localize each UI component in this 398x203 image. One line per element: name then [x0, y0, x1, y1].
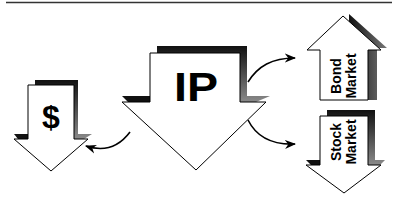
connector-ip-to-bond [248, 58, 295, 82]
ip-label: IP [174, 65, 218, 109]
connector-ip-to-dollar [86, 132, 130, 149]
dollar-label: $ [42, 99, 60, 135]
bond-market-arrow: Bond Market [307, 14, 387, 100]
diagram-svg: IP $ Bond Market Stock Market [0, 0, 398, 203]
ip-arrow-head-shadow-left [122, 96, 150, 102]
stock-market-arrow: Stock Market [306, 110, 385, 193]
bond-label-line2: Market [343, 53, 359, 98]
bond-label-line1: Bond [328, 58, 344, 94]
dollar-arrow: $ [14, 80, 92, 171]
connector-ip-to-stock [248, 120, 295, 144]
stock-label-line1: Stock [328, 123, 344, 161]
ip-arrow: IP [122, 46, 270, 170]
stock-label-line2: Market [343, 119, 359, 164]
diagram-canvas: IP $ Bond Market Stock Market [0, 0, 398, 203]
